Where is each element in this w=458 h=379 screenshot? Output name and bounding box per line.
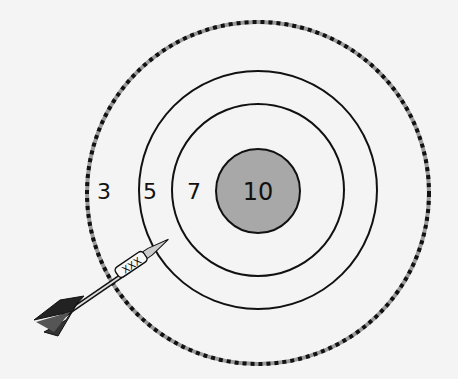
dart-icon: XXX [34,234,172,336]
target-graphic: 3 5 7 10 XXX [0,0,458,379]
score-label-7: 7 [187,179,201,204]
score-label-5: 5 [143,179,157,204]
score-label-10: 10 [243,178,274,206]
score-label-3: 3 [97,179,111,204]
dartboard-illustration: 3 5 7 10 XXX [0,0,458,379]
